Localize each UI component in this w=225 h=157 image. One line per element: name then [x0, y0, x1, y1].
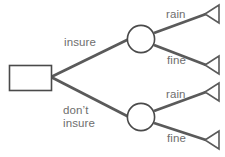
terminal-node-insure-rain[interactable] — [205, 5, 219, 23]
chance-node-dont-insure[interactable] — [127, 103, 154, 130]
tree-graphics — [0, 0, 225, 157]
chance-node-insure[interactable] — [127, 25, 154, 52]
terminal-node-dont-insure-fine[interactable] — [205, 131, 219, 149]
edge-insure-fine — [154, 45, 206, 65]
edge-dont-insure-rain — [154, 92, 206, 111]
edge-root-to-dont-insure — [51, 77, 129, 117]
terminal-node-dont-insure-rain[interactable] — [205, 83, 219, 101]
decision-node-root[interactable] — [10, 66, 52, 91]
terminal-node-insure-fine[interactable] — [205, 56, 219, 74]
terminal-nodes — [205, 5, 219, 149]
edge-insure-rain — [154, 14, 206, 33]
decision-tree-diagram: insure don’t insure rain fine rain fine — [0, 0, 225, 157]
edge-dont-insure-fine — [154, 123, 206, 140]
edge-root-to-insure — [51, 39, 129, 77]
